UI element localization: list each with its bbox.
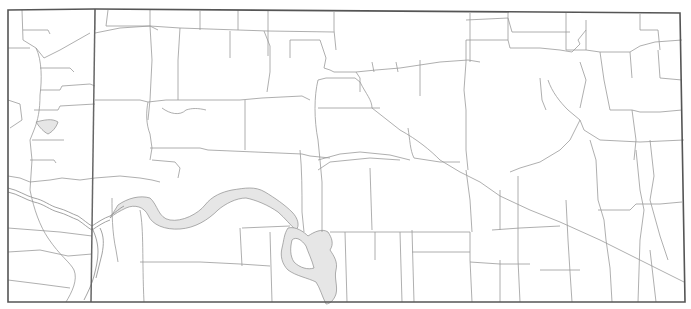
- outline-map: [0, 0, 691, 309]
